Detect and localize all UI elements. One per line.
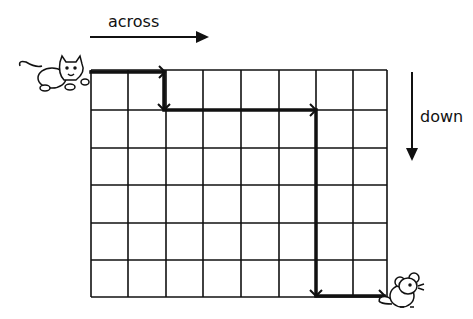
down-arrow-icon — [406, 72, 418, 161]
route-arrowheads — [158, 66, 385, 302]
diagram-canvas — [0, 0, 473, 319]
mouse-icon — [379, 273, 424, 307]
cat-icon — [20, 56, 89, 91]
across-arrow-icon — [90, 31, 209, 43]
route-path — [91, 72, 384, 296]
grid — [91, 70, 387, 297]
